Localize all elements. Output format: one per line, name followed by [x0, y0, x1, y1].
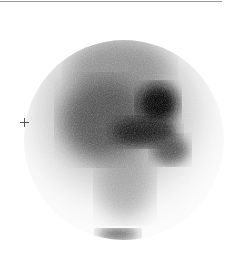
scintigraphy-image — [0, 0, 234, 254]
crosshair-marker-icon — [20, 118, 29, 127]
field-of-view — [0, 0, 234, 254]
